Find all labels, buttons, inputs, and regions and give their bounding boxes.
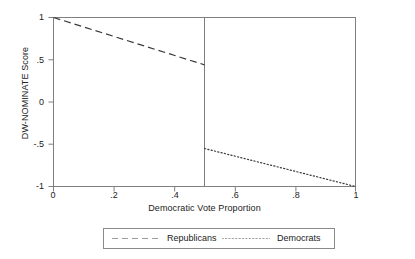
x-axis-label: Democratic Vote Proportion [53,203,356,213]
legend-entry-republicans: Republicans [112,229,217,248]
chart-legend: Republicans Democrats [103,228,335,249]
x-tick-label: .6 [220,191,250,200]
y-axis-ticks [49,18,54,187]
x-tick-label: 0 [38,191,68,200]
series-line-republicans [54,18,205,65]
x-tick-label: 1 [341,191,371,200]
series-line-democrats [205,148,356,186]
x-tick-label: .8 [281,191,311,200]
legend-label-republicans: Republicans [167,234,217,243]
legend-label-democrats: Democrats [277,234,321,243]
x-tick-label: .4 [160,191,190,200]
legend-swatch-dotted-icon [222,238,270,239]
dw-nominate-rd-plot: DW-NOMINATE Score 1 .5 0 -.5 -1 [0,0,415,259]
legend-swatch-dashed-icon [112,238,160,239]
x-tick-label: .2 [99,191,129,200]
plot-area [0,0,415,259]
legend-entry-democrats: Democrats [222,229,321,248]
